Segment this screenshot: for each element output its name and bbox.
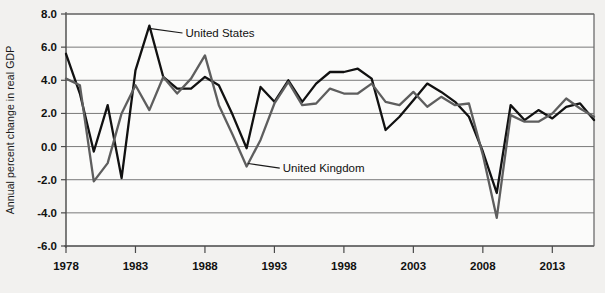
x-tick-label-1993: 1993 [262,260,288,272]
x-axis-ticks-group: 19781983198819931998200320082013 [53,246,565,272]
x-tick-label-1983: 1983 [123,260,149,272]
y-tick-label-0: 0.0 [41,141,57,153]
gdp-line-chart: 8.06.04.02.00.0-2.0-4.0-6.0 197819831988… [0,0,605,293]
annotation-label: United States [185,27,254,39]
y-tick-label--4: -4.0 [37,207,57,219]
x-tick-label-2013: 2013 [540,260,566,272]
x-tick-label-2008: 2008 [470,260,496,272]
x-tick-label-1988: 1988 [192,260,218,272]
x-tick-label-1978: 1978 [53,260,79,272]
y-tick-label--2: -2.0 [37,174,57,186]
annotation-label: United Kingdom [283,162,365,174]
chart-canvas: 8.06.04.02.00.0-2.0-4.0-6.0 197819831988… [0,0,605,293]
x-tick-label-1998: 1998 [331,260,357,272]
plot-background-group [66,14,594,246]
y-axis-ticks-group: 8.06.04.02.00.0-2.0-4.0-6.0 [37,8,66,252]
y-tick-label-6: 6.0 [41,41,57,53]
y-tick-label-4: 4.0 [41,74,57,86]
y-axis-title: Annual percent change in real GDP [4,46,16,215]
y-tick-label--6: -6.0 [37,240,57,252]
plot-area-background [66,14,594,246]
y-axis-label-group: Annual percent change in real GDP [4,46,16,215]
x-tick-label-2003: 2003 [401,260,427,272]
y-tick-label-8: 8.0 [41,8,57,20]
y-tick-label-2: 2.0 [41,107,57,119]
